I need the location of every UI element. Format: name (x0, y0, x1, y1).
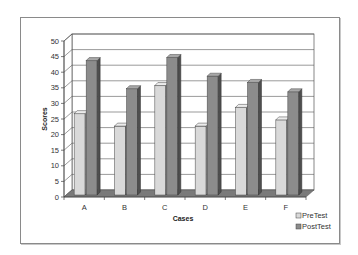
legend-label: PreTest (302, 211, 328, 220)
x-category-label: A (82, 203, 87, 212)
legend: PreTestPostTest (296, 211, 332, 231)
x-category-label: C (162, 203, 168, 212)
bar-front (115, 126, 126, 195)
bar-side (218, 73, 221, 195)
x-category-label: B (122, 203, 127, 212)
x-axis: ABCDEF (64, 197, 306, 212)
y-axis-title: Scores (41, 107, 48, 130)
bar-front (86, 61, 97, 195)
y-tick-label: 0 (55, 193, 59, 202)
bar-side (299, 89, 302, 195)
y-tick-label: 5 (55, 177, 59, 186)
bar-side (259, 79, 262, 195)
bar-front (127, 89, 138, 195)
y-tick-label: 45 (51, 52, 59, 61)
bar-posttest-e (248, 79, 262, 195)
y-tick-label: 25 (51, 115, 59, 124)
legend-item-pretest: PreTest (296, 211, 328, 220)
bar-chart: 05101520253035404550 ABCDEF Scores Cases… (0, 0, 358, 255)
bar-side (178, 54, 181, 195)
bar-front (236, 107, 247, 195)
y-tick-label: 50 (51, 37, 59, 46)
y-tick-label: 30 (51, 99, 59, 108)
y-axis: 05101520253035404550 (51, 37, 64, 202)
x-category-label: D (202, 203, 208, 212)
x-category-label: E (243, 203, 248, 212)
y-tick-label: 10 (51, 161, 59, 170)
bar-posttest-f (288, 89, 302, 195)
bar-posttest-c (167, 54, 181, 195)
bar-posttest-b (127, 86, 141, 195)
x-category-label: F (284, 203, 289, 212)
bar-front (167, 57, 178, 195)
bar-side (138, 86, 141, 195)
bar-front (74, 114, 85, 195)
bar-front (248, 82, 259, 195)
legend-swatch (296, 213, 301, 218)
legend-label: PostTest (302, 222, 332, 231)
legend-item-posttest: PostTest (296, 222, 332, 231)
bar-front (195, 126, 206, 195)
bar-front (276, 120, 287, 195)
bar-posttest-a (86, 58, 100, 195)
y-tick-label: 35 (51, 83, 59, 92)
y-tick-label: 20 (51, 130, 59, 139)
bar-side (97, 58, 100, 195)
bar-front (288, 92, 299, 195)
y-tick-label: 15 (51, 146, 59, 155)
legend-swatch (296, 224, 301, 229)
y-tick-label: 40 (51, 68, 59, 77)
bar-front (155, 86, 166, 195)
bar-front (207, 76, 218, 195)
x-axis-title: Cases (173, 215, 194, 222)
bar-posttest-d (207, 73, 221, 195)
